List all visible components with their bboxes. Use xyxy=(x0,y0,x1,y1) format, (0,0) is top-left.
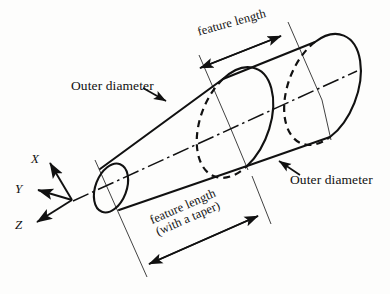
extension-line-right-lower xyxy=(322,100,331,140)
diagram-canvas xyxy=(0,0,390,294)
technical-diagram: X Y Z Outer diameter Outer diameter feat… xyxy=(0,0,390,294)
extension-line-small-end xyxy=(95,160,147,277)
dimension-line-feature-length xyxy=(200,36,281,68)
axis-label-z: Z xyxy=(15,218,22,232)
middle-ellipse-visible xyxy=(223,67,273,166)
axis-label-x: X xyxy=(31,152,39,166)
extension-line-middle-upper xyxy=(199,55,228,122)
axis-z-arrow xyxy=(37,200,72,222)
extension-line-right-upper xyxy=(288,22,322,100)
cylinder-top-edge xyxy=(223,42,315,79)
coordinate-axes xyxy=(37,163,72,222)
outer-diameter-bottom-label: Outer diameter xyxy=(290,173,373,187)
outer-diameter-top-label: Outer diameter xyxy=(71,79,154,93)
axis-label-y: Y xyxy=(15,182,22,196)
dimension-arrow-right xyxy=(200,36,281,68)
small-end-ellipse xyxy=(87,159,134,218)
right-ellipse-visible xyxy=(315,34,361,137)
extension-line-middle-lower xyxy=(228,122,248,170)
callout-leaders xyxy=(143,88,300,175)
